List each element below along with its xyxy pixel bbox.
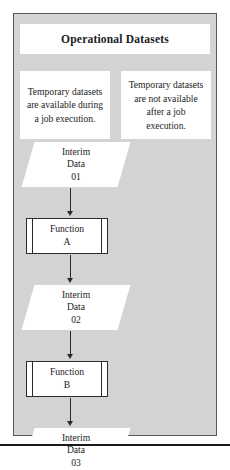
note-box-left: Temporary datasets are available during … (20, 71, 110, 139)
arrow-shaft (70, 255, 71, 278)
node-function-a: Function A (26, 218, 108, 254)
note-box-right: Temporary datasets are not available aft… (121, 71, 211, 139)
node-interim-data-01-label: Interim Data 01 (28, 142, 124, 187)
node-interim-data-02: Interim Data 02 (28, 285, 124, 330)
node-line-1: Function (50, 223, 84, 236)
operational-datasets-diagram: Operational Datasets Temporary datasets … (13, 13, 217, 436)
arrow-head-icon (67, 421, 73, 426)
arrow-down-2 (66, 255, 75, 283)
node-interim-data-03: Interim Data 03 (28, 428, 124, 470)
node-line-1: Interim (62, 289, 90, 302)
node-line-2: Data (67, 444, 85, 457)
arrow-down-3 (66, 331, 75, 359)
note-right-text: Temporary datasets are not available aft… (126, 78, 206, 132)
node-line-2: Data (67, 301, 85, 314)
arrow-shaft (70, 188, 71, 211)
node-line-1: Function (50, 366, 84, 379)
node-interim-data-02-label: Interim Data 02 (28, 285, 124, 330)
node-line-2: B (64, 379, 70, 392)
page-title: Operational Datasets (61, 33, 169, 45)
arrow-head-icon (67, 278, 73, 283)
arrow-head-icon (67, 211, 73, 216)
arrow-shaft (70, 331, 71, 354)
node-line-3: 01 (71, 171, 81, 184)
node-line-1: Interim (62, 146, 90, 159)
node-function-b-label: Function B (27, 362, 107, 396)
arrow-head-icon (67, 354, 73, 359)
node-line-3: 02 (71, 314, 81, 327)
node-function-b: Function B (26, 361, 108, 397)
node-function-a-label: Function A (27, 219, 107, 253)
node-line-2: Data (67, 158, 85, 171)
flowchart: Interim Data 01 Function A (14, 142, 218, 432)
diagram-title-box: Operational Datasets (20, 24, 210, 54)
node-interim-data-03-label: Interim Data 03 (28, 428, 124, 470)
page-divider-rule (0, 444, 230, 446)
node-line-3: 03 (71, 457, 81, 470)
note-left-text: Temporary datasets are available during … (25, 85, 105, 126)
arrow-shaft (70, 398, 71, 421)
node-interim-data-01: Interim Data 01 (28, 142, 124, 187)
arrow-down-4 (66, 398, 75, 426)
node-line-2: A (64, 236, 71, 249)
arrow-down-1 (66, 188, 75, 216)
node-line-1: Interim (62, 432, 90, 445)
